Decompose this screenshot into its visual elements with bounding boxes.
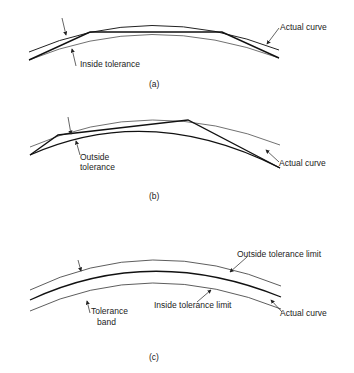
actual-curve [30, 131, 280, 168]
chord-polyline [30, 120, 280, 168]
label-inside-tolerance: Inside tolerance [80, 59, 140, 69]
actual-curve-leader [266, 150, 279, 162]
label-outside-tolerance-line1: Outside [80, 152, 109, 162]
panel-a-drawing [29, 18, 279, 66]
outside-limit-leader [230, 257, 247, 272]
caption-c: (c) [149, 352, 159, 362]
label-tolerance-band-line2: band [97, 317, 116, 327]
label-tolerance-band-line1: Tolerance [91, 306, 128, 316]
label-outside-tolerance-line2: tolerance [80, 162, 115, 172]
band-arrow-bottom [87, 301, 90, 313]
caption-a: (a) [149, 79, 159, 89]
band-arrow-top [78, 260, 81, 271]
label-actual-curve-b: Actual curve [279, 158, 326, 168]
label-inside-tolerance-limit: Inside tolerance limit [154, 300, 231, 310]
caption-b: (b) [149, 191, 159, 201]
label-outside-tolerance-limit: Outside tolerance limit [237, 249, 321, 259]
dimension-arrow-top [62, 18, 66, 35]
panel-b-drawing [30, 117, 280, 168]
dimension-arrow-top [68, 117, 71, 134]
label-actual-curve-c: Actual curve [280, 308, 327, 318]
actual-curve-outer [29, 25, 279, 52]
label-actual-curve-a: Actual curve [280, 22, 327, 32]
actual-curve-leader [267, 28, 279, 44]
dimension-arrow-bottom [72, 49, 76, 66]
